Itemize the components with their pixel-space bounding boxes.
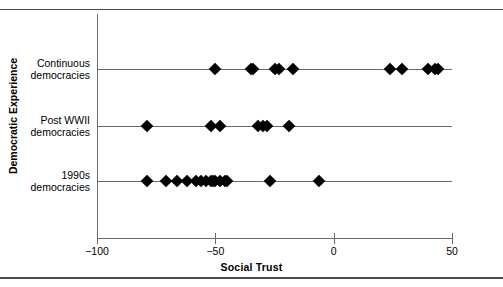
- data-point-marker: [140, 175, 153, 188]
- x-tick-label: −100: [85, 245, 109, 257]
- bottom-divider: [0, 277, 503, 279]
- category-label-postwwii: Post WWIIdemocracies: [8, 114, 90, 138]
- category-label-line2: democracies: [8, 181, 90, 193]
- category-label-1990s: 1990sdemocracies: [8, 169, 90, 193]
- category-label-line2: democracies: [8, 69, 90, 81]
- x-tick-mark: [334, 233, 335, 244]
- data-point-marker: [287, 63, 300, 76]
- data-point-marker: [209, 63, 222, 76]
- category-label-continuous: Continuousdemocracies: [8, 57, 90, 81]
- data-point-marker: [263, 175, 276, 188]
- category-label-line1: Continuous: [8, 57, 90, 69]
- category-label-line1: Post WWII: [8, 114, 90, 126]
- x-tick-label: −50: [206, 245, 224, 257]
- data-point-marker: [396, 63, 409, 76]
- data-point-marker: [282, 120, 295, 133]
- plot-area: [97, 14, 452, 238]
- data-point-marker: [140, 120, 153, 133]
- data-point-marker: [313, 175, 326, 188]
- x-tick-label: 50: [446, 245, 458, 257]
- data-point-marker: [214, 120, 227, 133]
- x-tick-mark: [452, 233, 453, 244]
- x-tick-label: 0: [331, 245, 337, 257]
- x-axis-title: Social Trust: [0, 261, 503, 273]
- x-axis-line: [97, 238, 453, 239]
- x-tick-mark: [97, 233, 98, 244]
- top-divider: [0, 9, 503, 10]
- x-tick-mark: [215, 233, 216, 244]
- chart-figure: Democratic Experience Social Trust Conti…: [0, 0, 503, 287]
- category-label-line2: democracies: [8, 126, 90, 138]
- category-label-line1: 1990s: [8, 169, 90, 181]
